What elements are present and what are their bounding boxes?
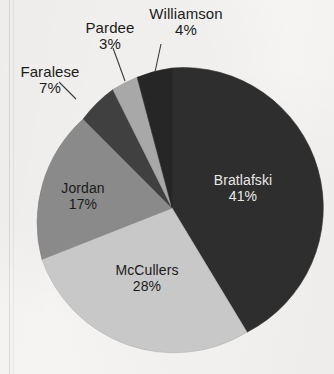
leader-line-pardee xyxy=(113,48,125,81)
pie-label-pardee-percent: 3% xyxy=(62,36,158,52)
pie-label-jordan: Jordan 17% xyxy=(37,180,129,212)
pie-label-faralese: Faralese 7% xyxy=(0,64,100,96)
pie-label-williamson-name: Williamson xyxy=(149,5,223,22)
pie-chart-figure: Faralese 7% Pardee 3% Williamson 4% Brat… xyxy=(0,0,334,374)
pie-label-mccullers-name: McCullers xyxy=(115,262,178,278)
pie-label-pardee-name: Pardee xyxy=(86,19,135,36)
pie-label-williamson: Williamson 4% xyxy=(131,6,241,38)
pie-label-bratlafski-percent: 41% xyxy=(191,188,295,204)
pie-label-bratlafski: Bratlafski 41% xyxy=(191,172,295,204)
pie-chart-plot-area: Faralese 7% Pardee 3% Williamson 4% Brat… xyxy=(0,0,334,374)
pie-label-jordan-percent: 17% xyxy=(37,196,129,212)
pie-label-faralese-name: Faralese xyxy=(20,63,79,80)
pie-label-mccullers: McCullers 28% xyxy=(95,262,199,294)
pie-label-mccullers-percent: 28% xyxy=(95,278,199,294)
pie-label-faralese-percent: 7% xyxy=(0,80,100,96)
pie-label-williamson-percent: 4% xyxy=(131,22,241,38)
pie-label-bratlafski-name: Bratlafski xyxy=(214,172,273,188)
pie-label-jordan-name: Jordan xyxy=(61,180,104,196)
